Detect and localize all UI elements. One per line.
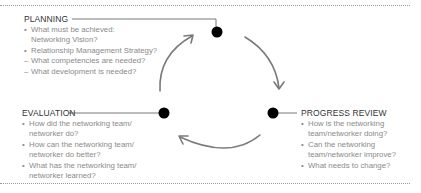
planning-list: •What must be achieved:Networking Vision…: [24, 25, 157, 77]
evaluation-list: •How did the networking team/networker d…: [22, 119, 136, 181]
progress-review-block: PROGRESS REVIEW •How is the networkingte…: [301, 108, 396, 171]
arrow-evaluation-to-planning: [160, 35, 193, 91]
planning-item: •Relationship Management Strategy?: [24, 46, 157, 56]
progress-review-item: •What needs to change?: [301, 161, 396, 171]
planning-title: PLANNING: [24, 14, 157, 24]
arrow-progress-review-to-evaluation: [179, 135, 260, 148]
planning-item: •What must be achieved:Networking Vision…: [24, 25, 157, 46]
arrow-planning-to-progress-review: [245, 37, 284, 89]
evaluation-title: EVALUATION: [22, 108, 136, 118]
evaluation-item: •How can the networking team/networker d…: [22, 140, 136, 161]
planning-block: PLANNING •What must be achieved:Networki…: [24, 14, 157, 77]
progress-review-item: •Can the networkingteam/networker improv…: [301, 140, 396, 161]
planning-item: –What development is needed?: [24, 67, 157, 77]
evaluation-item: •What has the networking team/networker …: [22, 161, 136, 182]
planning-node-dot: [212, 27, 223, 38]
progress-review-list: •How is the networkingteam/networker doi…: [301, 119, 396, 171]
progress-review-title: PROGRESS REVIEW: [301, 108, 396, 118]
evaluation-item: •How did the networking team/networker d…: [22, 119, 136, 140]
evaluation-block: EVALUATION •How did the networking team/…: [22, 108, 136, 181]
evaluation-node-dot: [159, 108, 170, 119]
progress-review-node-dot: [268, 108, 279, 119]
planning-item: –What competencies are needed?: [24, 56, 157, 66]
progress-review-item: •How is the networkingteam/networker doi…: [301, 119, 396, 140]
